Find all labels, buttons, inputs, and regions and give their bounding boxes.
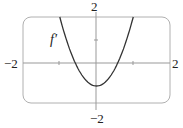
curve-label: f′ — [50, 33, 57, 47]
f-prime-curve — [60, 17, 134, 86]
plot-canvas — [0, 0, 183, 128]
x-min-label: −2 — [4, 57, 18, 70]
y-min-label: −2 — [90, 112, 104, 125]
x-max-label: 2 — [172, 57, 179, 70]
y-max-label: 2 — [91, 0, 98, 13]
